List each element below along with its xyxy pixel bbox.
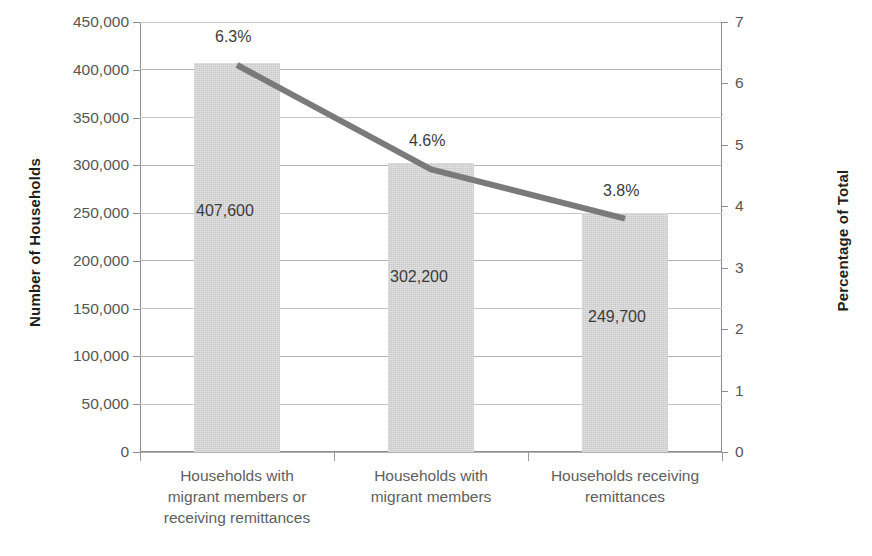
y-axis-right-tick-label: 5 xyxy=(735,137,744,153)
y-axis-left-tick-label: 50,000 xyxy=(82,396,129,412)
x-axis-category-label: Households receivingremittances xyxy=(528,466,722,508)
x-axis-category-label: Households withmigrant members orreceivi… xyxy=(140,466,334,529)
y-axis-right-tick-label: 4 xyxy=(735,198,744,214)
y-axis-left-tick-label: 200,000 xyxy=(73,253,129,269)
y-axis-right-tick xyxy=(721,83,728,84)
y-axis-right-tick-label: 1 xyxy=(735,383,744,399)
y-axis-right-tick-label: 2 xyxy=(735,321,744,337)
category-label-line: receiving remittances xyxy=(140,508,334,529)
y-axis-left-tick xyxy=(133,404,140,405)
line-value-label: 6.3% xyxy=(215,29,251,45)
y-axis-right-tick xyxy=(721,22,728,23)
y-axis-right-tick-label: 0 xyxy=(735,444,744,460)
y-axis-left-tick-label: 300,000 xyxy=(73,157,129,173)
category-label-line: Households with xyxy=(334,466,528,487)
y-axis-left-tick xyxy=(133,452,140,453)
y-axis-left-tick xyxy=(133,261,140,262)
y-axis-left-tick xyxy=(133,118,140,119)
y-axis-left-tick xyxy=(133,22,140,23)
category-label-line: Households receiving xyxy=(528,466,722,487)
x-axis-category-tick xyxy=(528,452,529,461)
y-axis-right-tick-label: 3 xyxy=(735,260,744,276)
y-axis-left-tick-label: 450,000 xyxy=(73,14,129,30)
y-axis-left-tick xyxy=(133,356,140,357)
y-axis-right-tick xyxy=(721,329,728,330)
category-label-line: remittances xyxy=(528,487,722,508)
y-axis-right-tick xyxy=(721,268,728,269)
x-axis-category-tick xyxy=(334,452,335,461)
category-label-line: migrant members or xyxy=(140,487,334,508)
y-axis-right-tick-label: 6 xyxy=(735,75,744,91)
y-axis-title-left: Number of Households xyxy=(26,113,43,373)
y-axis-left-tick-label: 250,000 xyxy=(73,205,129,221)
y-axis-left-tick-label: 100,000 xyxy=(73,348,129,364)
y-axis-left-tick-label: 150,000 xyxy=(73,301,129,317)
y-axis-right-tick xyxy=(721,145,728,146)
y-axis-right-tick-label: 7 xyxy=(735,14,744,30)
y-axis-right-tick xyxy=(721,206,728,207)
x-axis-category-tick xyxy=(722,452,723,461)
chart-container: Number of Households Percentage of Total… xyxy=(0,0,872,556)
y-axis-left-tick xyxy=(133,165,140,166)
y-axis-left-tick-label: 0 xyxy=(120,444,129,460)
x-axis-category-tick xyxy=(140,452,141,461)
y-axis-left-tick-label: 400,000 xyxy=(73,62,129,78)
y-axis-title-right: Percentage of Total xyxy=(834,111,851,371)
y-axis-right-tick xyxy=(721,391,728,392)
category-label-line: Households with xyxy=(140,466,334,487)
y-axis-left-tick xyxy=(133,70,140,71)
y-axis-left-tick xyxy=(133,309,140,310)
category-label-line: migrant members xyxy=(334,487,528,508)
plot-area: 050,000100,000150,000200,000250,000300,0… xyxy=(140,22,722,452)
line-series xyxy=(140,22,722,452)
x-axis-category-label: Households withmigrant members xyxy=(334,466,528,508)
line-value-label: 4.6% xyxy=(409,133,445,149)
y-axis-left-tick xyxy=(133,213,140,214)
line-value-label: 3.8% xyxy=(603,183,639,199)
y-axis-left-tick-label: 350,000 xyxy=(73,110,129,126)
